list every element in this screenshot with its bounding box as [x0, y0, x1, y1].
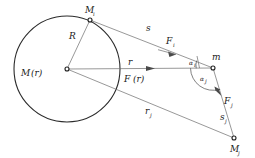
label-distance-s: s	[146, 23, 151, 33]
label-center-mass-base: M	[20, 68, 31, 78]
segment-r	[67, 68, 213, 69]
label-force-resultant-arg: (r)	[133, 74, 145, 84]
angle-i-arc	[196, 61, 197, 69]
label-force-i: F i	[165, 36, 175, 48]
gravitational-shell-diagram: M (r) M i M j m R r s r j s j	[0, 0, 255, 158]
label-distance-r: r	[128, 57, 133, 67]
label-shell-upper-sub: i	[93, 11, 95, 17]
label-shell-upper: M i	[84, 5, 95, 17]
label-force-j-sub: j	[230, 102, 233, 109]
label-force-resultant: F (r)	[123, 74, 145, 84]
point-shell-lower	[232, 136, 236, 140]
label-angle-j: α j	[200, 75, 207, 85]
label-center-mass-arg: (r)	[31, 68, 43, 78]
label-angle-j-base: α	[200, 75, 204, 82]
label-force-resultant-base: F	[123, 74, 131, 84]
label-force-i-base: F	[165, 36, 173, 46]
segment-rj	[67, 69, 234, 138]
label-distance-rj: r j	[145, 106, 152, 119]
label-force-i-sub: i	[173, 42, 175, 48]
label-force-j-base: F	[223, 96, 231, 106]
force-r-arrowhead-icon	[146, 66, 155, 71]
label-angle-i-base: α	[189, 59, 193, 66]
radius-segment-R	[67, 20, 90, 69]
label-distance-sj: s j	[220, 112, 227, 125]
point-shell-upper	[88, 18, 92, 22]
label-shell-lower: M j	[229, 144, 240, 157]
label-center-mass: M (r)	[20, 68, 43, 78]
label-angle-i-sub: i	[194, 62, 196, 68]
label-distance-rj-sub: j	[149, 112, 152, 119]
label-distance-sj-sub: j	[224, 118, 227, 125]
label-angle-j-sub: j	[204, 78, 207, 85]
point-center-mass	[65, 67, 69, 71]
segment-s	[90, 20, 213, 68]
label-radius: R	[68, 31, 76, 41]
point-test-mass	[211, 66, 215, 70]
label-shell-lower-sub: j	[237, 150, 240, 157]
diagram-canvas: M (r) M i M j m R r s r j s j	[0, 0, 255, 158]
label-test-mass: m	[212, 52, 221, 62]
label-angle-i: α i	[189, 59, 196, 68]
